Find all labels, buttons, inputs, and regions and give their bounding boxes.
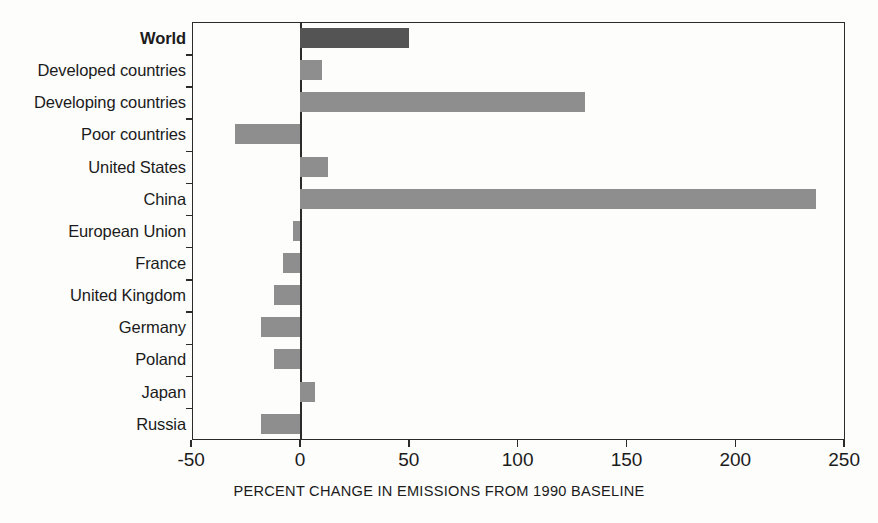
category-label: Poland	[135, 350, 186, 369]
x-axis-tick	[408, 440, 409, 447]
chart-row: World	[0, 22, 878, 54]
chart-row: European Union	[0, 215, 878, 247]
x-axis-tick-label: 250	[828, 449, 860, 471]
y-axis-tick	[186, 311, 193, 312]
x-axis-tick	[517, 440, 518, 447]
category-label: United States	[88, 157, 186, 176]
x-axis-tick	[843, 440, 844, 447]
y-axis-tick	[186, 54, 193, 55]
x-axis-tick-label: 0	[295, 449, 306, 471]
category-label: China	[143, 189, 186, 208]
category-label: Developed countries	[37, 61, 186, 80]
x-axis-title: PERCENT CHANGE IN EMISSIONS FROM 1990 BA…	[26, 482, 851, 500]
y-axis-tick	[186, 151, 193, 152]
bar	[293, 221, 300, 241]
chart-row: United Kingdom	[0, 279, 878, 311]
category-label: Germany	[119, 318, 186, 337]
chart-row: Poland	[0, 343, 878, 375]
bar	[300, 157, 328, 177]
bar	[261, 317, 300, 337]
category-label: World	[140, 29, 186, 48]
category-label: Japan	[142, 382, 186, 401]
bar	[300, 92, 585, 112]
bar	[235, 124, 300, 144]
x-axis-tick-label: 150	[611, 449, 643, 471]
chart-row: Germany	[0, 311, 878, 343]
x-axis: -50050100150200250	[0, 440, 878, 480]
bar	[274, 349, 300, 369]
chart-row: Japan	[0, 376, 878, 408]
y-axis-tick	[186, 86, 193, 87]
category-label: Poor countries	[81, 125, 186, 144]
y-axis-tick	[186, 247, 193, 248]
y-axis-tick	[186, 344, 193, 345]
bar	[300, 189, 816, 209]
emissions-change-bar-chart: WorldDeveloped countriesDeveloping count…	[0, 0, 878, 523]
y-axis-tick	[186, 279, 193, 280]
bar	[283, 253, 300, 273]
chart-row: United States	[0, 151, 878, 183]
x-axis-tick	[190, 440, 191, 447]
chart-row: Russia	[0, 408, 878, 440]
y-axis-tick	[186, 408, 193, 409]
x-axis-tick-label: 200	[719, 449, 751, 471]
x-axis-tick-label: -50	[177, 449, 204, 471]
y-axis-tick	[186, 215, 193, 216]
bar	[261, 414, 300, 434]
y-axis-tick	[186, 183, 193, 184]
category-label: France	[135, 254, 186, 273]
bar	[274, 285, 300, 305]
chart-row: Poor countries	[0, 118, 878, 150]
chart-row: France	[0, 247, 878, 279]
y-axis-tick	[186, 376, 193, 377]
category-label: Russia	[136, 414, 186, 433]
category-rows: WorldDeveloped countriesDeveloping count…	[0, 22, 878, 440]
bar	[300, 382, 315, 402]
x-axis-tick	[735, 440, 736, 447]
chart-row: China	[0, 183, 878, 215]
category-label: European Union	[68, 221, 186, 240]
x-axis-tick	[626, 440, 627, 447]
chart-row: Developed countries	[0, 54, 878, 86]
y-axis-tick	[186, 118, 193, 119]
x-axis-tick-label: 50	[398, 449, 419, 471]
category-label: Developing countries	[34, 93, 186, 112]
category-label: United Kingdom	[70, 286, 186, 305]
chart-row: Developing countries	[0, 86, 878, 118]
x-axis-tick-label: 100	[502, 449, 534, 471]
bar	[300, 60, 322, 80]
x-axis-tick	[299, 440, 300, 447]
bar	[300, 28, 409, 48]
